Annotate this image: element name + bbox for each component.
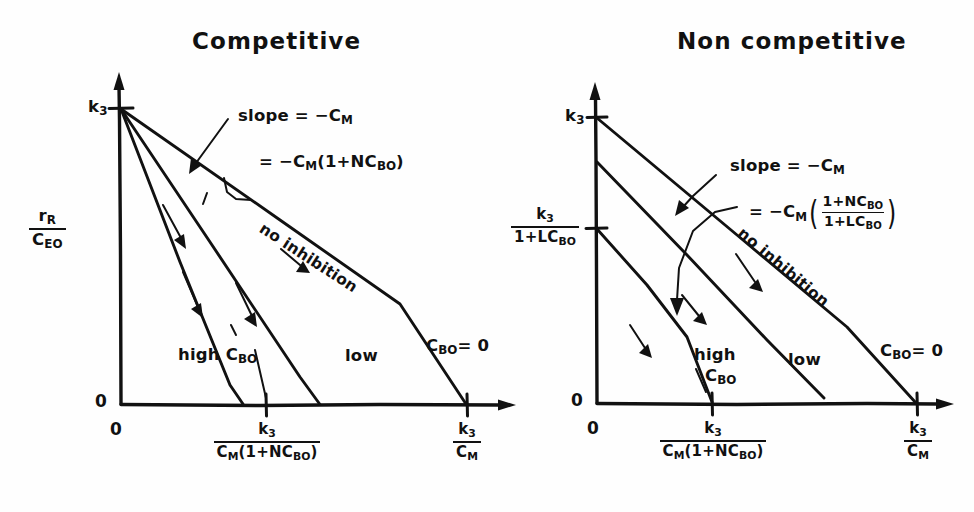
y-origin-zero-non-competitive: 0	[571, 390, 583, 410]
x-tick-2-nc	[917, 393, 918, 415]
curve-label-high-non-competitive: high	[694, 345, 736, 364]
zero-tail-nc: = 0	[911, 341, 943, 360]
slope2-tail-sub: BO	[377, 159, 396, 173]
yt2-num-sub: 3	[546, 212, 554, 225]
xt1-den-nc: C	[663, 442, 674, 460]
line-high-cbo-nc	[597, 229, 712, 402]
y-axis-non-competitive	[596, 98, 598, 403]
close-paren: )	[887, 201, 896, 225]
slope-leader-1	[196, 119, 228, 163]
arrow-shaft-noinh-nc	[736, 254, 755, 282]
y-tick-label-k3-non-competitive: k3	[565, 106, 584, 127]
xt1-num: k	[258, 420, 268, 438]
x-tick-label-2-non-competitive: k3 CM	[888, 420, 948, 461]
slope2-sub-nc: M	[795, 210, 807, 224]
curve-label-high-line2-non-competitive: CBO	[705, 366, 736, 387]
k3-text: k	[88, 97, 99, 116]
xt1-den-tail-nc: (1+NC	[685, 442, 739, 460]
xt1-den-sub: M	[228, 450, 239, 463]
yt2-den-sub: BO	[558, 235, 575, 248]
y-axis-den: C	[32, 230, 44, 249]
slope-frac-den: 1+LC	[824, 213, 865, 229]
xt2-den-nc: C	[907, 442, 918, 460]
slope-tickmark	[203, 193, 207, 204]
slope-leader-2-head-nc	[670, 298, 684, 316]
slope1-sub: M	[341, 113, 353, 127]
xt2-num-sub-nc: 3	[919, 426, 927, 439]
xt2-num-sub: 3	[468, 427, 476, 440]
curve-label-zero-competitive: CBO= 0	[426, 336, 489, 357]
x-tick-1-nc	[712, 393, 713, 415]
curve-label-low-non-competitive: low	[788, 350, 821, 369]
zero-tail: = 0	[457, 336, 489, 355]
arrow-head-high-nc	[639, 344, 652, 358]
k3-sub-nc: 3	[576, 113, 584, 127]
slope1-text-nc: slope = −C	[730, 156, 833, 175]
yt2-den: 1+LC	[514, 228, 558, 246]
high-text-nc: high	[694, 345, 736, 364]
curve-label-zero-non-competitive: CBO= 0	[880, 341, 943, 362]
y-origin-zero-competitive: 0	[95, 391, 107, 411]
y-axis-den-sub: EO	[44, 237, 62, 251]
zero-sub: BO	[438, 343, 457, 357]
x-tick-label-1-competitive: k3 CM(1+NCBO)	[206, 421, 328, 462]
high-text: high C	[178, 345, 238, 364]
xt1-num-sub: 3	[268, 427, 276, 440]
panel-competitive: Competitive	[0, 0, 487, 512]
xt1-den-tail: (1+NC	[239, 443, 293, 461]
xt1-den-close-nc: )	[756, 442, 763, 460]
xt1-den: C	[217, 443, 228, 461]
arrow-shaft-high-2	[183, 272, 198, 307]
y-axis-num: r	[39, 206, 47, 225]
x-axis-non-competitive	[597, 404, 937, 405]
x-tick-2	[467, 394, 468, 416]
open-paren: (	[809, 201, 818, 225]
slope-frac-den-sub: BO	[865, 220, 881, 231]
xt1-den-sub-nc: M	[674, 449, 685, 462]
k3-text-nc: k	[565, 106, 576, 125]
slope2-close: )	[396, 152, 404, 171]
slope1-sub-nc: M	[833, 163, 845, 177]
xt1-den-close: )	[310, 443, 317, 461]
xt1-den-tail-sub-nc: BO	[739, 449, 756, 462]
slope2-text: = −C	[259, 152, 305, 171]
slope1-text: slope = −C	[238, 106, 341, 125]
xt2-num: k	[458, 420, 468, 438]
high-line2-sub-nc: BO	[717, 373, 736, 387]
y-axis-arrowhead-nc	[590, 82, 601, 100]
slope2-text-nc: = −C	[749, 202, 795, 221]
slope-frac-num: 1+NC	[823, 193, 867, 209]
yt2-num: k	[536, 205, 546, 223]
curve-label-low-competitive: low	[345, 346, 378, 365]
y-axis-label-competitive: rR CEO	[29, 207, 66, 251]
slope-annotation-line2-competitive: = −CM(1+NCBO)	[259, 152, 404, 173]
xt2-den-sub-nc: M	[918, 449, 929, 462]
xt2-num-nc: k	[909, 419, 919, 437]
y-axis-competitive	[119, 86, 121, 404]
figure-root: Competitive	[0, 0, 974, 512]
high-label-leader-top	[231, 325, 236, 335]
xt2-den-sub: M	[467, 450, 478, 463]
xt1-num-nc: k	[704, 419, 714, 437]
zero-sub-nc: BO	[892, 348, 911, 362]
arrow-head-noinh-nc	[749, 279, 763, 292]
x-tick-label-1-non-competitive: k3 CM(1+NCBO)	[652, 420, 774, 461]
y-tick-label-k3-competitive: k3	[88, 97, 107, 118]
slope2-tail: (1+NC	[317, 152, 377, 171]
high-line2-text-nc: C	[705, 366, 717, 385]
arrow-shaft-low-nc	[682, 295, 699, 316]
curve-label-high-competitive: high CBO	[178, 345, 257, 366]
k3-sub: 3	[99, 104, 107, 118]
x-axis-competitive	[121, 405, 500, 406]
x-origin-zero-competitive: 0	[110, 419, 122, 439]
slope-annotation-line2-non-competitive: = −CM( 1+NCBO 1+LCBO )	[749, 194, 899, 232]
y-axis-arrowhead	[114, 72, 125, 90]
high-sub: BO	[238, 352, 257, 366]
panel-non-competitive: Non competitive	[487, 0, 974, 512]
xt1-num-sub-nc: 3	[714, 426, 722, 439]
slope-annotation-line1-competitive: slope = −CM	[238, 106, 353, 127]
xt2-den: C	[456, 443, 467, 461]
arrow-head-low-nc	[693, 312, 707, 325]
x-axis-arrowhead-nc	[936, 399, 954, 410]
slope-frac-num-sub: BO	[867, 200, 883, 211]
